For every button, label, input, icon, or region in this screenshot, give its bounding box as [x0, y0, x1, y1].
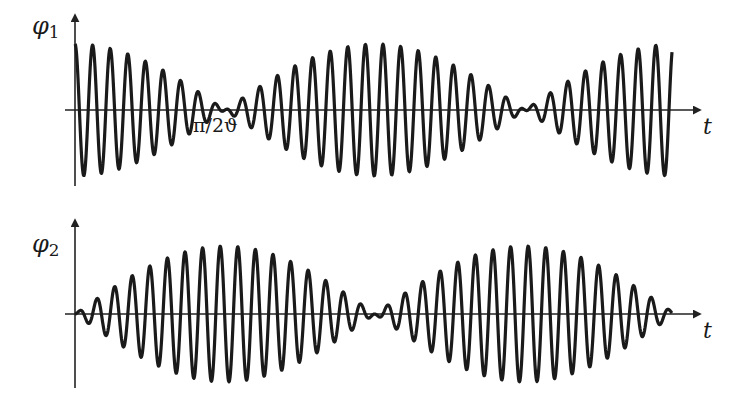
phi1-subscript: 1 [49, 22, 60, 42]
beating-oscillators-figure: φ1 t π/2ϑ φ2 t [0, 0, 738, 420]
phi2-symbol: φ [32, 230, 49, 258]
plot-phi1 [65, 15, 700, 186]
node-annotation-pi-over-2-theta: π/2ϑ [193, 116, 238, 135]
phi2-y-label: φ2 [32, 232, 60, 259]
phi2-subscript: 2 [49, 240, 60, 260]
phi1-symbol: φ [32, 12, 49, 40]
phi2-t-label: t [703, 320, 712, 342]
figure-canvas [0, 0, 738, 420]
plot-phi2 [65, 220, 700, 388]
phi1-t-label: t [703, 116, 712, 138]
phi1-y-label: φ1 [32, 14, 60, 41]
